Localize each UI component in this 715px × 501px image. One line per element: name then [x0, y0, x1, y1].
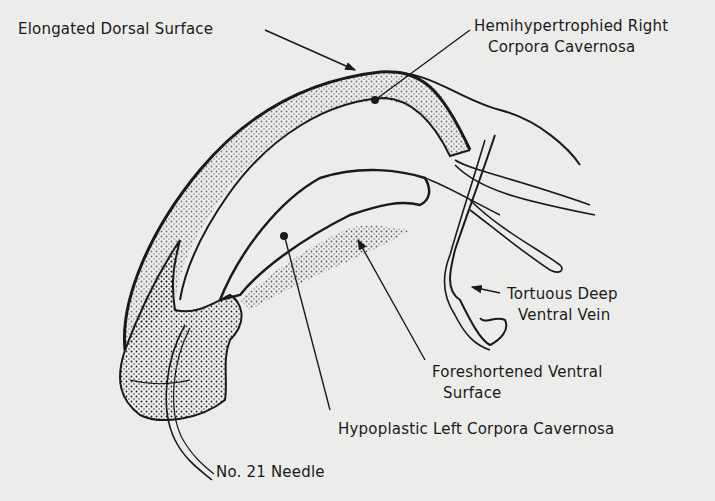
label-hypoplastic-left: Hypoplastic Left Corpora Cavernosa	[338, 420, 614, 438]
right-corpus-outline	[124, 72, 580, 350]
label-tortuous-deep-1: Tortuous Deep	[507, 285, 618, 303]
label-tortuous-deep-2: Ventral Vein	[518, 306, 610, 324]
label-elongated-dorsal-surface: Elongated Dorsal Surface	[18, 20, 213, 38]
label-hemihypertrophied-right-2: Corpora Cavernosa	[488, 38, 635, 56]
label-foreshortened-ventral-2: Surface	[443, 384, 502, 402]
label-hemihypertrophied-right-1: Hemihypertrophied Right	[474, 17, 668, 35]
label-needle: No. 21 Needle	[216, 463, 325, 481]
label-foreshortened-ventral-1: Foreshortened Ventral	[432, 363, 603, 381]
